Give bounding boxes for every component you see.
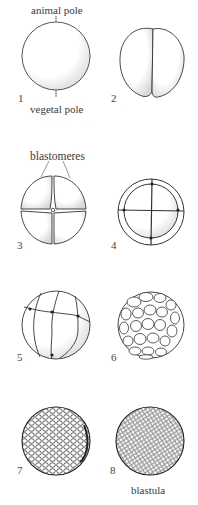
blastomeres-label: blastomeres xyxy=(30,150,85,162)
stage-3-four-cell xyxy=(21,161,86,244)
stage-6-thirty-two-cell xyxy=(118,292,184,359)
animal-pole-label: animal pole xyxy=(31,4,83,16)
stage-2-two-cell xyxy=(120,28,184,97)
stage-1-egg xyxy=(22,16,90,97)
stage-number-3: 3 xyxy=(17,239,23,251)
stage-number-2: 2 xyxy=(111,92,117,104)
blastula-label: blastula xyxy=(131,484,165,496)
stage-number-6: 6 xyxy=(111,351,117,363)
stage-number-4: 4 xyxy=(111,239,117,251)
stage-4-eight-cell xyxy=(118,179,184,245)
stage-8-blastula xyxy=(116,407,184,475)
stage-7-morula xyxy=(22,407,90,475)
stage-number-8: 8 xyxy=(110,464,116,476)
stage-5-sixteen-cell xyxy=(22,291,90,359)
stage-number-1: 1 xyxy=(18,92,24,104)
cleavage-diagram xyxy=(0,0,198,505)
stage-number-7: 7 xyxy=(17,464,23,476)
stage-number-5: 5 xyxy=(17,351,23,363)
vegetal-pole-label: vegetal pole xyxy=(30,103,83,115)
